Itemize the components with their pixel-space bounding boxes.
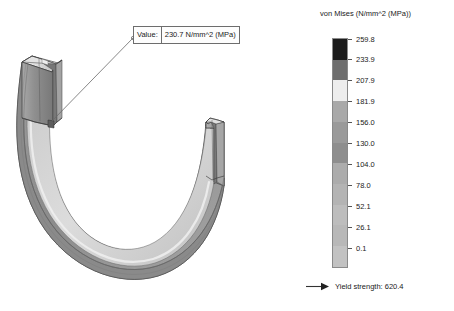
legend-band: [333, 225, 347, 246]
beam-body: [17, 56, 224, 279]
arrow-right-icon: [306, 282, 332, 291]
callout-leader-line: [52, 36, 135, 121]
legend-tick: 0.1: [348, 243, 366, 253]
legend-color-bar[interactable]: [332, 38, 348, 268]
legend-band: [333, 101, 347, 122]
legend-tick: 26.1: [348, 222, 371, 232]
yield-strength-row: Yield strength: 620.4: [306, 282, 404, 291]
legend-tick-value: 26.1: [356, 223, 371, 232]
legend-tick-value: 233.9: [356, 55, 375, 64]
legend-band: [333, 246, 347, 267]
tick-dash-icon: [348, 122, 352, 123]
legend-band: [333, 122, 347, 143]
tick-dash-icon: [348, 39, 352, 40]
legend-band: [333, 205, 347, 226]
legend-band: [333, 60, 347, 81]
legend-tick-value: 78.0: [356, 181, 371, 190]
legend-band: [333, 80, 347, 101]
legend-tick: 130.0: [348, 139, 375, 149]
legend-tick: 207.9: [348, 76, 375, 86]
yield-strength-label: Yield strength: 620.4: [335, 282, 404, 291]
legend-tick-value: 207.9: [356, 76, 375, 85]
legend-tick: 104.0: [348, 159, 375, 169]
legend-panel: von Mises (N/mm^2 (MPa)) 259.8 233.9 207…: [300, 0, 454, 311]
legend-tick: 181.9: [348, 97, 375, 107]
legend-tick: 156.0: [348, 118, 375, 128]
tick-dash-icon: [348, 80, 352, 81]
legend-tick-value: 130.0: [356, 139, 375, 148]
tick-dash-icon: [348, 248, 352, 249]
legend-tick-value: 156.0: [356, 118, 375, 127]
tick-dash-icon: [348, 101, 352, 102]
legend-tick-labels: 259.8 233.9 207.9 181.9 156.0 130.0 104.…: [348, 38, 448, 268]
callout-value: 230.7 N/mm^2 (MPa): [162, 27, 239, 43]
legend-band: [333, 184, 347, 205]
left-arm-front-flange: [56, 60, 62, 122]
legend-tick-value: 52.1: [356, 202, 371, 211]
legend-tick-value: 0.1: [356, 244, 366, 253]
left-arm-web: [22, 62, 53, 126]
tick-dash-icon: [348, 227, 352, 228]
legend-tick-value: 104.0: [356, 160, 375, 169]
tick-dash-icon: [348, 185, 352, 186]
legend-tick: 78.0: [348, 180, 371, 190]
callout-label: Value:: [134, 27, 162, 43]
legend-band: [333, 39, 347, 60]
legend-tick: 233.9: [348, 55, 375, 65]
model-viewport[interactable]: [0, 0, 300, 311]
legend-tick: 259.8: [348, 34, 375, 44]
legend-tick: 52.1: [348, 201, 371, 211]
tick-dash-icon: [348, 206, 352, 207]
tick-dash-icon: [348, 143, 352, 144]
fea-model-graphic[interactable]: [0, 0, 300, 311]
legend-band: [333, 163, 347, 184]
value-callout[interactable]: Value: 230.7 N/mm^2 (MPa): [133, 26, 240, 44]
legend-tick-value: 259.8: [356, 35, 375, 44]
legend-band: [333, 143, 347, 164]
left-arm-anchor-node: [48, 120, 54, 128]
tick-dash-icon: [348, 59, 352, 60]
legend-title: von Mises (N/mm^2 (MPa)): [320, 9, 411, 18]
tick-dash-icon: [348, 164, 352, 165]
legend-tick-value: 181.9: [356, 97, 375, 106]
